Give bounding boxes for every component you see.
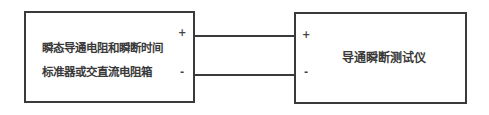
positive-wire [194,35,295,37]
right-plus-terminal: + [302,29,310,40]
left-minus-terminal: - [180,66,184,77]
standard-box-label-line2: 标准器或交直流电阻箱 [42,63,152,79]
right-minus-terminal: - [304,66,308,77]
tester-box-label: 导通瞬断测试仪 [342,48,426,65]
standard-resistor-box [24,11,195,103]
standard-box-label-line1: 瞬态导通电阻和瞬断时间 [42,39,163,55]
negative-wire [194,74,295,76]
left-plus-terminal: + [178,27,186,38]
